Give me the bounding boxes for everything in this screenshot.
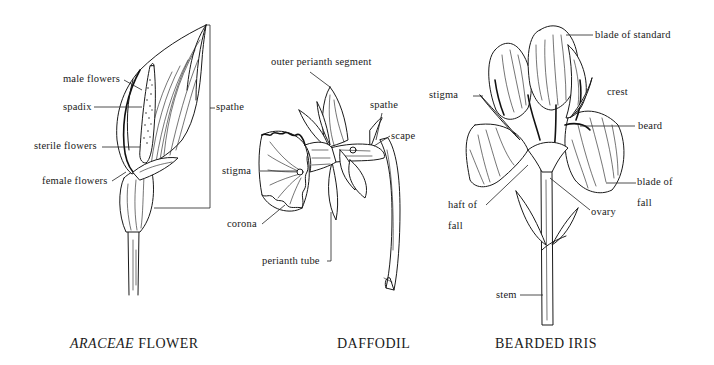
araceae-stem bbox=[128, 230, 139, 295]
label-crest: crest bbox=[607, 87, 628, 98]
label-sterile-flowers: sterile flowers bbox=[34, 141, 97, 152]
iris-left-fall bbox=[466, 124, 528, 187]
label-female-flowers: female flowers bbox=[42, 176, 107, 187]
label-corona: corona bbox=[227, 219, 257, 230]
leader-perianth-tube bbox=[327, 212, 331, 261]
label-stem: stem bbox=[496, 290, 517, 301]
label-haft-of-fall-line1: haft of bbox=[448, 200, 477, 211]
title-bearded-iris: BEARDED IRIS bbox=[495, 336, 597, 352]
label-stigma-iris: stigma bbox=[429, 90, 458, 101]
label-ovary: ovary bbox=[591, 207, 616, 218]
label-blade-of-standard: blade of standard bbox=[595, 30, 671, 41]
title-araceae-rest: FLOWER bbox=[134, 336, 199, 351]
title-araceae-italic: ARACEAE bbox=[70, 336, 134, 351]
araceae-flower-drawing bbox=[94, 25, 215, 295]
araceae-base bbox=[120, 169, 154, 232]
leader-outer-perianth-segment bbox=[310, 72, 330, 87]
label-scape: scape bbox=[391, 131, 415, 142]
label-spadix: spadix bbox=[63, 102, 92, 113]
label-beard: beard bbox=[638, 121, 662, 132]
label-male-flowers: male flowers bbox=[63, 74, 120, 85]
label-haft-of-fall-line2: fall bbox=[448, 221, 463, 232]
bearded-iris-drawing bbox=[466, 26, 636, 325]
leader-corona bbox=[262, 205, 285, 224]
label-outer-perianth-segment: outer perianth segment bbox=[271, 57, 372, 68]
label-spathe-daffodil: spathe bbox=[370, 100, 398, 111]
label-blade-of-fall-line2: fall bbox=[637, 198, 652, 209]
title-daffodil: DAFFODIL bbox=[337, 336, 410, 352]
title-araceae-flower: ARACEAE FLOWER bbox=[70, 336, 199, 352]
daffodil-scape bbox=[380, 138, 400, 290]
label-spathe-araceae: spathe bbox=[216, 102, 244, 113]
label-perianth-tube: perianth tube bbox=[262, 256, 320, 267]
label-stigma-daffodil: stigma bbox=[222, 166, 251, 177]
label-blade-of-fall-line1: blade of bbox=[637, 177, 673, 188]
daffodil-stigma bbox=[297, 169, 303, 175]
